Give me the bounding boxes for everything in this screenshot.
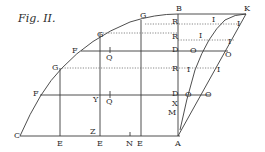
label-r2: R (172, 32, 179, 41)
label-o2: O (225, 50, 232, 59)
label-n: N (126, 139, 133, 148)
label-o1: O (190, 46, 197, 55)
label-g1: G (52, 63, 58, 72)
label-a: A (174, 139, 181, 148)
label-g2: G (97, 30, 103, 39)
label-o4: O (205, 90, 212, 99)
label-d1: D (172, 45, 178, 54)
label-k: K (244, 4, 251, 13)
figure-title: Fig. II. (17, 12, 55, 25)
label-z: Z (90, 127, 96, 136)
label-e2: E (97, 139, 103, 148)
label-b: B (176, 4, 182, 13)
label-e1: E (57, 139, 63, 148)
label-q2: Q (106, 97, 113, 106)
label-y: Y (92, 95, 99, 104)
label-g3: G (140, 11, 146, 20)
label-i5: I (187, 65, 190, 74)
label-q1: Q (106, 53, 113, 62)
label-x: X (172, 99, 178, 108)
label-r1: R (172, 17, 179, 26)
label-i6: I (217, 65, 220, 74)
label-d2: D (172, 89, 178, 98)
label-o3: O (185, 90, 192, 99)
geometric-figure: Fig. II. C A B K E E N E Z Y Q Q F F G G… (0, 0, 265, 152)
label-r3: R (172, 64, 179, 73)
label-i2: I (237, 19, 240, 28)
label-i1: I (212, 15, 215, 24)
label-m: M (168, 108, 176, 117)
label-f1: F (33, 89, 39, 98)
label-c: C (14, 131, 20, 140)
label-i4: I (228, 37, 231, 46)
label-i3: I (199, 31, 202, 40)
label-f2: F (72, 46, 78, 55)
line-ak (178, 14, 246, 136)
label-e3: E (137, 139, 143, 148)
